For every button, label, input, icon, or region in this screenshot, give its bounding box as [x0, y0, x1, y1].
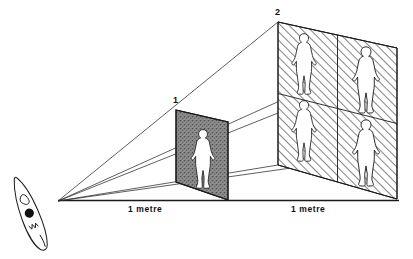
- far-screen-number-label: 2: [275, 7, 280, 17]
- near-screen-number-label: 1: [173, 95, 178, 105]
- far-distance-label: 1 metre: [291, 204, 325, 214]
- observer-eye: [8, 174, 52, 254]
- diagram-canvas: 2 1 1 metre 1 metre: [0, 0, 413, 259]
- far-projection-screen: [278, 22, 397, 199]
- near-projection-screen: [176, 110, 228, 200]
- near-distance-label: 1 metre: [128, 204, 162, 214]
- perspective-diagram: 2 1 1 metre 1 metre: [0, 0, 413, 259]
